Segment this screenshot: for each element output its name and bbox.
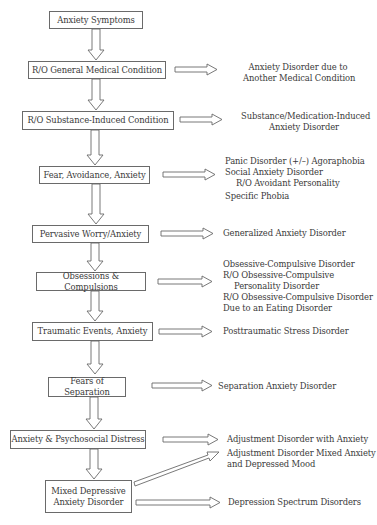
right-arrow-8	[152, 380, 212, 391]
step-label: Fear, Avoidance, Anxiety	[43, 170, 145, 181]
outcome-depression-spectrum: Depression Spectrum Disorders	[228, 497, 361, 508]
down-arrow-2	[88, 79, 104, 110]
outcome-line: Due to an Eating Disorder	[223, 303, 373, 314]
outcome-line: R/O Obsessive-Compulsive	[223, 270, 373, 281]
right-arrow-2	[175, 64, 217, 75]
step-label: Traumatic Events, Anxiety	[38, 326, 148, 337]
step-fear-avoidance: Fear, Avoidance, Anxiety	[39, 166, 150, 184]
step-pervasive-worry: Pervasive Worry/Anxiety	[32, 225, 149, 243]
right-arrow-4	[163, 169, 215, 180]
outcome-line: Posttraumatic Stress Disorder	[223, 326, 349, 337]
step-label: Anxiety & Psychosocial Distress	[12, 434, 145, 445]
outcome-line: Anxiety Disorder due to	[243, 62, 353, 73]
outcome-separation: Separation Anxiety Disorder	[218, 381, 336, 392]
right-arrow-10	[136, 497, 220, 508]
step-fears-separation: Fears of Separation	[48, 377, 126, 397]
step-label: Obsessions & Compulsions	[37, 271, 145, 293]
step-label: Anxiety Disorder	[53, 497, 123, 508]
right-arrow-3	[180, 114, 222, 125]
outcome-line: R/O Obsessive-Compulsive Disorder	[223, 292, 373, 303]
down-arrow-7	[87, 341, 103, 374]
outcome-pervasive-worry: Generalized Anxiety Disorder	[223, 228, 346, 239]
down-arrow-9	[86, 449, 102, 479]
step-substance-induced: R/O Substance-Induced Condition	[22, 111, 174, 130]
outcome-fear-avoidance: Panic Disorder (+/–) Agoraphobia Social …	[225, 156, 365, 202]
outcome-line: Generalized Anxiety Disorder	[223, 228, 346, 239]
step-psychosocial-distress: Anxiety & Psychosocial Distress	[10, 430, 146, 449]
step-traumatic-events: Traumatic Events, Anxiety	[32, 322, 153, 341]
outcome-line: Separation Anxiety Disorder	[218, 381, 336, 392]
down-arrow-3	[87, 130, 103, 165]
down-arrow-5	[87, 243, 103, 271]
outcome-line: and Depressed Mood	[227, 459, 376, 470]
step-label: Fears of Separation	[49, 376, 125, 398]
step-mixed-depressive: Mixed Depressive Anxiety Disorder	[45, 480, 132, 513]
step-anxiety-symptoms: Anxiety Symptoms	[49, 11, 143, 29]
step-general-medical: R/O General Medical Condition	[28, 61, 166, 79]
outcome-mixed-adjustment: Adjustment Disorder Mixed Anxiety and De…	[227, 448, 376, 470]
step-obsessions: Obsessions & Compulsions	[36, 272, 146, 291]
outcome-obsessions: Obsessive-Compulsive Disorder R/O Obsess…	[223, 259, 373, 314]
outcome-line: Another Medical Condition	[243, 73, 353, 84]
right-arrow-7	[159, 326, 212, 337]
down-arrow-8	[86, 397, 102, 429]
outcome-line: Social Anxiety Disorder	[225, 167, 365, 178]
outcome-line: Specific Phobia	[225, 191, 365, 202]
outcome-line: Personality Disorder	[223, 281, 373, 292]
down-arrow-4	[88, 184, 104, 224]
outcome-psychosocial: Adjustment Disorder with Anxiety	[227, 434, 368, 445]
outcome-line: Anxiety Disorder	[241, 122, 367, 133]
diagonal-arrow-10	[134, 452, 219, 486]
right-arrow-6	[158, 276, 212, 287]
down-arrow-1	[88, 29, 104, 60]
outcome-line: Substance/Medication-Induced	[241, 111, 367, 122]
outcome-line: R/O Avoidant Personality	[225, 178, 365, 189]
outcome-general-medical: Anxiety Disorder due to Another Medical …	[243, 62, 353, 84]
step-label: R/O General Medical Condition	[32, 65, 162, 76]
outcome-line: Obsessive-Compulsive Disorder	[223, 259, 373, 270]
outcome-traumatic: Posttraumatic Stress Disorder	[223, 326, 349, 337]
outcome-line: Adjustment Disorder Mixed Anxiety	[227, 448, 376, 459]
step-label: Pervasive Worry/Anxiety	[40, 229, 142, 240]
down-arrow-6	[87, 291, 103, 321]
outcome-line: Depression Spectrum Disorders	[228, 497, 361, 508]
step-label: Anxiety Symptoms	[57, 15, 134, 26]
outcome-line: Adjustment Disorder with Anxiety	[227, 434, 368, 445]
outcome-substance: Substance/Medication-Induced Anxiety Dis…	[241, 111, 367, 133]
step-label: Mixed Depressive	[51, 486, 125, 497]
right-arrow-5	[161, 228, 213, 239]
outcome-line: Panic Disorder (+/–) Agoraphobia	[225, 156, 365, 167]
right-arrow-9	[163, 434, 218, 445]
step-label: R/O Substance-Induced Condition	[27, 115, 168, 126]
